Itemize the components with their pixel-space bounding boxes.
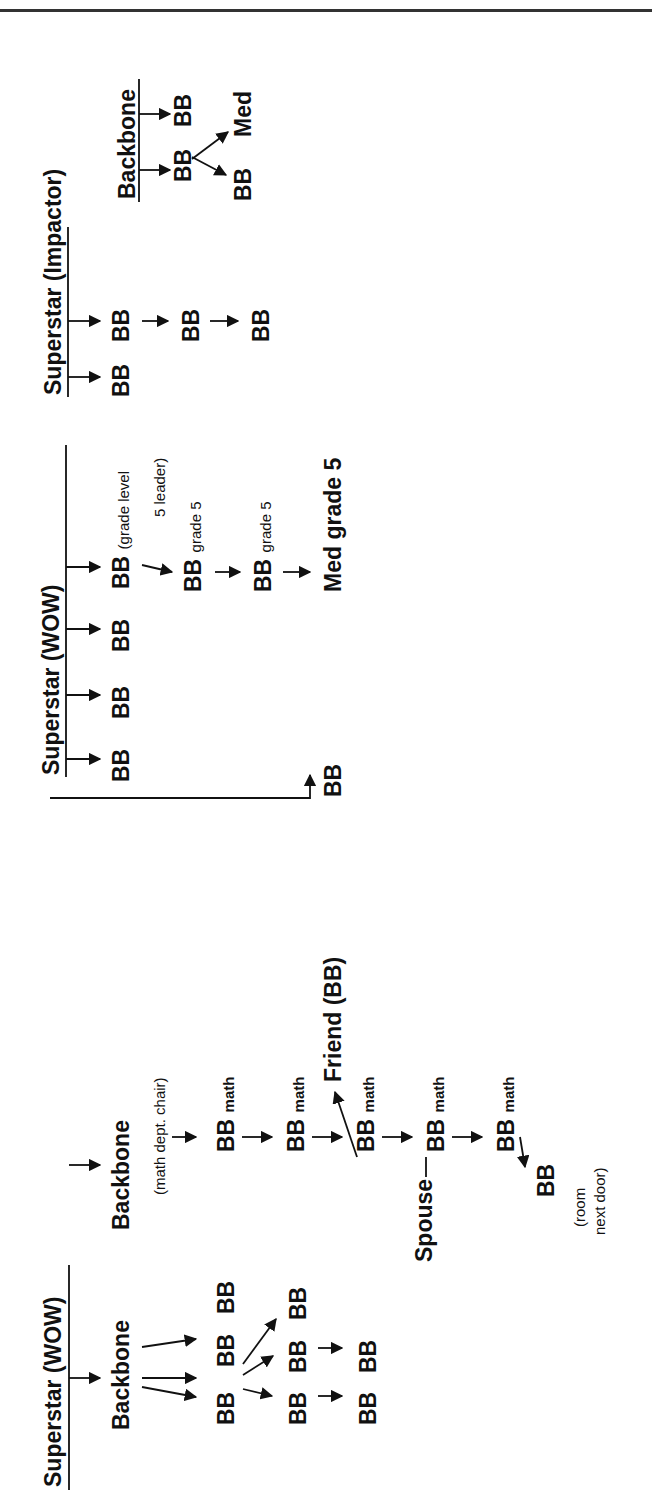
bb-math-node-1: BB math [215, 1077, 238, 1152]
bb-node: BB [357, 1340, 380, 1373]
bb-node: BB [172, 149, 195, 182]
superstar-wow-title-1: Superstar (WOW) [42, 1297, 65, 1487]
bb-node: BB [110, 309, 133, 342]
room-note-line2: next door) [592, 1167, 607, 1235]
bb-node: BB [215, 1281, 238, 1314]
bb-node: BB [172, 94, 195, 127]
bb-grade-leader-node: BB (grade level [110, 471, 133, 589]
friend-node: Friend (BB) [322, 957, 345, 1082]
bb-grade5-node-1: BB grade 5 [182, 502, 205, 593]
spouse-node: Spouse [413, 1179, 436, 1262]
bb-math-node-4: BB math [425, 1077, 448, 1152]
bb-cross-link-node: BB [322, 764, 345, 797]
bb-node: BB [250, 309, 273, 342]
bb-node: BB [287, 1392, 310, 1425]
bb-math-node-2: BB math [285, 1077, 308, 1152]
bb-node: BB [110, 619, 133, 652]
grade-leader-note: 5 leader) [152, 458, 167, 517]
connector-layer [0, 0, 652, 1497]
bb-node: BB [110, 364, 133, 397]
bb-node: BB [215, 1334, 238, 1367]
bb-math-node-3: BB math [355, 1077, 378, 1152]
bb-node: BB [110, 686, 133, 719]
bb-node: BB [232, 168, 255, 201]
bb-node: BB [357, 1392, 380, 1425]
room-note-line1: (room [572, 1188, 587, 1227]
backbone-node-a: Backbone [110, 1320, 133, 1430]
bb-node: BB [110, 749, 133, 782]
superstar-impactor-title: Superstar (Impactor) [42, 169, 65, 395]
bb-node: BB [287, 1340, 310, 1373]
bb-room-next-door: BB [535, 1164, 558, 1197]
backbone-node-b: Backbone [110, 1120, 133, 1230]
bb-node: BB [180, 309, 203, 342]
diagram-canvas: Superstar (WOW) Backbone Backbone (math … [0, 0, 652, 1497]
bb-node: BB [215, 1392, 238, 1425]
bb-grade5-node-2: BB grade 5 [252, 502, 275, 593]
backbone-b-note: (math dept. chair) [152, 1077, 167, 1195]
bb-node: BB [287, 1287, 310, 1320]
bb-math-node-5: BB math [495, 1077, 518, 1152]
backbone-title-c: Backbone [116, 89, 139, 199]
superstar-wow-title-2: Superstar (WOW) [40, 585, 63, 775]
med-node: Med [232, 91, 255, 137]
med-grade5-node: Med grade 5 [322, 458, 345, 592]
